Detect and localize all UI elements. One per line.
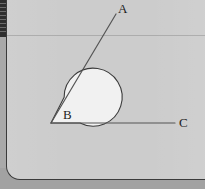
reflex-angle-sector <box>51 68 122 126</box>
screenshot-root: A B C <box>0 0 205 189</box>
angle-diagram <box>0 0 205 189</box>
point-label-c: C <box>179 116 188 129</box>
point-label-a: A <box>118 2 127 15</box>
point-label-b: B <box>63 108 72 121</box>
